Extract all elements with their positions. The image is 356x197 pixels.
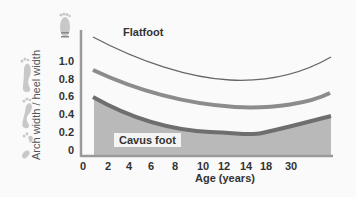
arch-index-chart: Arch width / heel width 1.0 0.8 0.6 0.4 …	[0, 0, 356, 197]
x-tick-label: 6	[141, 160, 161, 172]
y-tick-label: 0.2	[44, 126, 74, 138]
x-tick-label: 0	[73, 160, 93, 172]
x-tick-label: 12	[214, 160, 234, 172]
footprint-flat-icon	[59, 12, 70, 37]
x-tick-label: 4	[119, 160, 139, 172]
y-tick-label: 1.0	[44, 55, 74, 67]
y-tick-label: 0.4	[44, 108, 74, 120]
y-tick-label: 0.8	[44, 73, 74, 85]
y-tick-label: 0	[44, 144, 74, 156]
x-tick-label: 2	[98, 160, 118, 172]
cavus-foot-annotation: Cavus foot	[114, 133, 181, 147]
x-tick-label: 10	[193, 160, 213, 172]
x-tick-label: 8	[165, 160, 185, 172]
x-axis-title: Age (years)	[195, 172, 255, 184]
x-tick-label: 18	[256, 160, 276, 172]
y-axis-title: Arch width / heel width	[30, 50, 42, 160]
x-tick-label: 30	[281, 160, 301, 172]
x-tick-label: 14	[236, 160, 256, 172]
flatfoot-annotation: Flatfoot	[123, 26, 163, 38]
y-tick-label: 0.6	[44, 90, 74, 102]
flatfoot-boundary-line	[93, 37, 331, 80]
mean-line	[93, 70, 330, 107]
